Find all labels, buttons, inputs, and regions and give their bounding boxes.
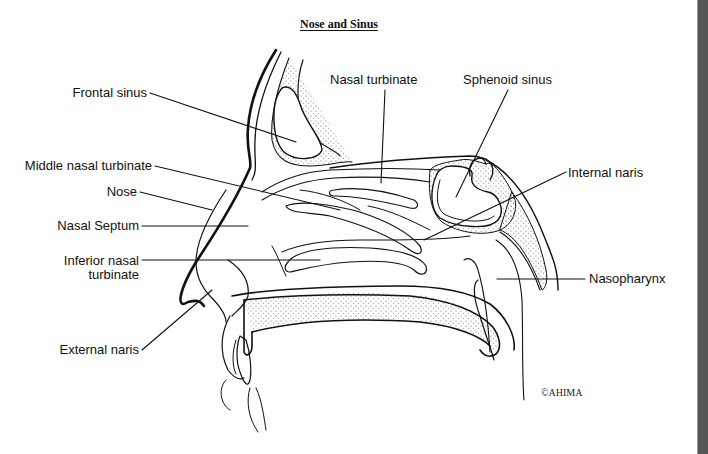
diagram-page: Nose and Sinus Frontal sinus Nasal turbi… xyxy=(0,0,697,454)
label-sphenoid-sinus: Sphenoid sinus xyxy=(463,73,552,87)
label-external-naris: External naris xyxy=(20,343,139,357)
label-nasal-septum: Nasal Septum xyxy=(20,219,139,233)
label-nasopharynx: Nasopharynx xyxy=(589,272,666,286)
label-internal-naris: Internal naris xyxy=(568,166,643,180)
label-inferior-nasal-turbinate-line2: turbinate xyxy=(20,268,139,282)
superior-turbinate xyxy=(330,189,418,209)
label-frontal-sinus: Frontal sinus xyxy=(40,86,147,100)
diagram-title: Nose and Sinus xyxy=(300,17,378,32)
copyright-notice: ©AHIMA xyxy=(541,387,582,398)
label-nose: Nose xyxy=(40,185,137,199)
label-inferior-nasal-turbinate: Inferior nasal turbinate xyxy=(20,254,139,282)
right-edge-scrollbar[interactable] xyxy=(697,0,708,454)
label-nasal-turbinate: Nasal turbinate xyxy=(330,73,417,87)
label-inferior-nasal-turbinate-line1: Inferior nasal xyxy=(20,254,139,268)
inferior-turbinate xyxy=(285,248,426,275)
label-middle-nasal-turbinate: Middle nasal turbinate xyxy=(10,159,152,173)
skin-profile xyxy=(180,50,276,306)
middle-turbinate xyxy=(286,203,421,253)
